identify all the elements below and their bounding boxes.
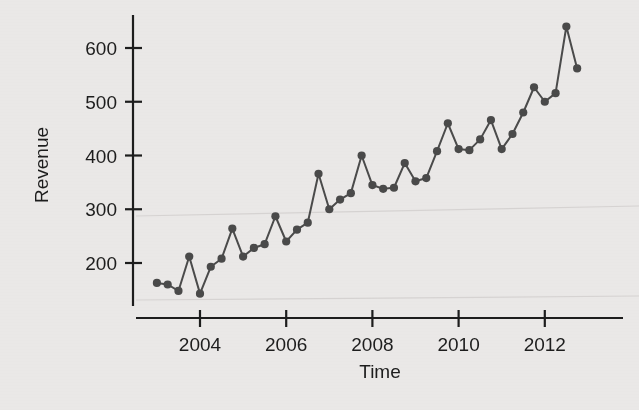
data-point	[347, 189, 355, 197]
data-point	[228, 225, 236, 233]
data-point	[153, 279, 161, 287]
x-axis-title: Time	[359, 361, 401, 382]
data-point	[455, 145, 463, 153]
data-point	[174, 287, 182, 295]
data-point	[401, 159, 409, 167]
y-tick-label: 300	[85, 199, 117, 220]
data-point	[551, 89, 559, 97]
data-point	[250, 244, 258, 252]
y-axis: 200300400500600 Revenue	[31, 15, 142, 306]
y-tick-label: 400	[85, 146, 117, 167]
data-point	[282, 237, 290, 245]
x-tick-label: 2006	[265, 334, 307, 355]
data-point	[541, 98, 549, 106]
data-point	[304, 219, 312, 227]
data-point	[498, 145, 506, 153]
data-point	[562, 22, 570, 30]
series-line	[157, 27, 577, 294]
x-axis: 20042006200820102012 Time	[136, 310, 623, 382]
y-tick-label-group: 200300400500600	[85, 38, 117, 274]
x-tick-label: 2010	[437, 334, 479, 355]
y-tick-label: 600	[85, 38, 117, 59]
data-point	[196, 290, 204, 298]
data-point	[336, 195, 344, 203]
data-point	[390, 184, 398, 192]
data-point	[207, 263, 215, 271]
data-point	[164, 280, 172, 288]
data-point	[217, 255, 225, 263]
data-point	[358, 151, 366, 159]
series-point-group	[153, 22, 581, 297]
data-point	[185, 252, 193, 260]
data-point	[422, 174, 430, 182]
x-tick-label: 2004	[179, 334, 222, 355]
data-point	[271, 212, 279, 220]
data-point	[476, 135, 484, 143]
data-point	[293, 226, 301, 234]
data-point	[433, 147, 441, 155]
data-point	[573, 64, 581, 72]
x-tick-label: 2008	[351, 334, 393, 355]
y-tick-label: 500	[85, 92, 117, 113]
data-point	[379, 185, 387, 193]
data-point	[508, 130, 516, 138]
x-tick-label: 2012	[524, 334, 566, 355]
data-point	[465, 146, 473, 154]
scan-artifact-lines	[136, 206, 639, 300]
chart-canvas: 200300400500600 Revenue 2004200620082010…	[0, 0, 639, 410]
data-point	[519, 108, 527, 116]
data-point	[325, 205, 333, 213]
data-point	[444, 119, 452, 127]
data-point	[261, 240, 269, 248]
y-axis-title: Revenue	[31, 127, 52, 203]
data-series-revenue	[153, 22, 581, 297]
data-point	[487, 116, 495, 124]
y-tick-label: 200	[85, 253, 117, 274]
data-point	[314, 170, 322, 178]
data-point	[411, 177, 419, 185]
data-point	[239, 252, 247, 260]
x-tick-label-group: 20042006200820102012	[179, 334, 566, 355]
data-point	[368, 181, 376, 189]
data-point	[530, 83, 538, 91]
revenue-time-series-chart: 200300400500600 Revenue 2004200620082010…	[0, 0, 639, 410]
